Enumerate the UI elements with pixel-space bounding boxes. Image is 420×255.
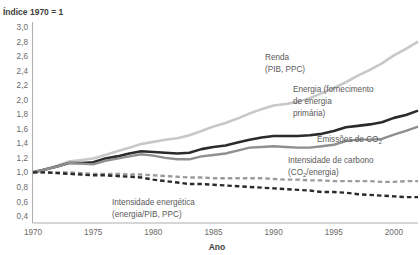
y-tick-7: 1,6 xyxy=(17,125,29,134)
annotation-renda-line1: Renda xyxy=(265,53,290,62)
y-tick-11: 0,8 xyxy=(17,183,29,192)
annotation-intens-line1: Intensidade energética xyxy=(112,198,195,207)
annotation-co2-text: Emissões de CO xyxy=(317,135,378,144)
x-tick-4: 1990 xyxy=(264,228,283,237)
x-tick-6: 2000 xyxy=(385,228,404,237)
line-chart: 3,02,82,62,42,22,01,81,61,41,21,00,80,60… xyxy=(0,0,420,255)
x-tick-1: 1975 xyxy=(84,228,103,237)
y-tick-3: 2,4 xyxy=(17,67,29,76)
series-line-3 xyxy=(33,172,418,181)
y-tick-2: 2,6 xyxy=(17,52,29,61)
chart-title: Índice 1970 = 1 xyxy=(3,7,64,17)
annotation-renda-line2: (PIB, PPC) xyxy=(265,65,305,74)
annotation-carbono-line1: Intensidade de carbono xyxy=(288,156,374,165)
annotation-energia: Energia (fornecimento de energia primári… xyxy=(293,85,374,118)
annotation-energia-line2: de energia xyxy=(293,97,332,106)
annotation-carbono-line2a: (CO xyxy=(288,168,303,177)
annotation-emissoes-co2: Emissões de CO2 xyxy=(317,135,382,145)
x-tick-0: 1970 xyxy=(24,228,43,237)
y-tick-4: 2,2 xyxy=(17,81,29,90)
y-tick-8: 1,4 xyxy=(17,139,29,148)
series-line-2 xyxy=(33,127,418,173)
y-tick-10: 1,0 xyxy=(17,168,29,177)
y-tick-9: 1,2 xyxy=(17,154,29,163)
annotation-intensidade-carbono: Intensidade de carbono (CO2/energia) xyxy=(288,156,374,178)
series-paths xyxy=(33,42,418,198)
y-tick-5: 2,0 xyxy=(17,96,29,105)
svg-text:(CO2/energia): (CO2/energia) xyxy=(288,168,339,178)
y-tick-6: 1,8 xyxy=(17,110,29,119)
series-line-4 xyxy=(33,172,418,197)
svg-text:Emissões de CO2: Emissões de CO2 xyxy=(317,135,382,145)
annotation-energia-line1: Energia (fornecimento xyxy=(293,85,374,94)
annotation-intens-line2: (energia/PIB, PPC) xyxy=(112,210,182,219)
y-tick-12: 0,6 xyxy=(17,198,29,207)
x-axis-tick-labels: 1970197519801985199019952000 xyxy=(24,228,404,237)
annotation-intensidade-energetica: Intensidade energética (energia/PIB, PPC… xyxy=(112,198,195,219)
x-tick-5: 1995 xyxy=(325,228,344,237)
annotation-carbono-line2b: /energia) xyxy=(306,168,339,177)
y-tick-0: 3,0 xyxy=(17,23,29,32)
x-tick-2: 1980 xyxy=(144,228,163,237)
y-tick-1: 2,8 xyxy=(17,38,29,47)
x-axis-title: Ano xyxy=(209,242,226,252)
chart-container: 3,02,82,62,42,22,01,81,61,41,21,00,80,60… xyxy=(0,0,420,255)
x-tick-3: 1985 xyxy=(204,228,223,237)
annotation-renda: Renda (PIB, PPC) xyxy=(265,53,305,74)
y-tick-13: 0,4 xyxy=(17,212,29,221)
y-axis-tick-labels: 3,02,82,62,42,22,01,81,61,41,21,00,80,60… xyxy=(17,23,29,221)
annotation-energia-line3: primária) xyxy=(293,109,326,118)
